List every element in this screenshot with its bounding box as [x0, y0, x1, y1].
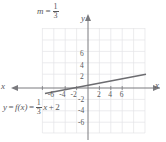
y-axis-arrow-up	[85, 14, 91, 21]
slope-symbol: m	[37, 7, 44, 16]
equation-equals-1: =	[9, 103, 14, 112]
x-axis-label-left: x	[1, 82, 5, 91]
x-tick-label: -6	[48, 91, 54, 99]
x-tick-label: -2	[71, 91, 77, 99]
x-tick-label: 6	[120, 91, 124, 99]
y-tick-label: 4	[80, 62, 84, 70]
equation-denominator: 3	[36, 107, 42, 116]
y-tick-label: -2	[78, 96, 84, 104]
axis-arrowheads	[11, 14, 160, 91]
slope-numerator: 1	[53, 3, 59, 11]
slope-equals: =	[46, 7, 51, 16]
y-tick-label: 6	[80, 50, 84, 58]
equation-label: y = f(x) = 1 3 x + 2	[3, 99, 60, 117]
x-tick-label: 2	[97, 91, 101, 99]
equation-variable: x	[43, 103, 47, 112]
slope-fraction: 1 3	[53, 3, 59, 21]
slope-label: m = 1 3	[37, 3, 59, 21]
equation-fraction: 1 3	[36, 99, 42, 117]
y-tick-label: -6	[78, 119, 84, 127]
equation-function-notation: f(x)	[15, 103, 28, 112]
slope-denominator: 3	[53, 11, 59, 20]
x-tick-label: -4	[59, 91, 65, 99]
y-tick-label: 2	[80, 73, 84, 81]
equation-plus: +	[49, 103, 54, 112]
y-tick-label: -4	[78, 107, 84, 115]
x-axis-label-right: x	[155, 81, 159, 90]
x-axis-arrow-left	[11, 85, 18, 91]
equation-equals-2: =	[29, 103, 34, 112]
grid-lines	[42, 28, 145, 133]
x-tick-label: 4	[108, 91, 112, 99]
equation-lhs: y	[3, 103, 7, 112]
equation-intercept: 2	[55, 103, 60, 112]
y-axis-label: y	[81, 14, 85, 23]
equation-numerator: 1	[36, 99, 42, 107]
